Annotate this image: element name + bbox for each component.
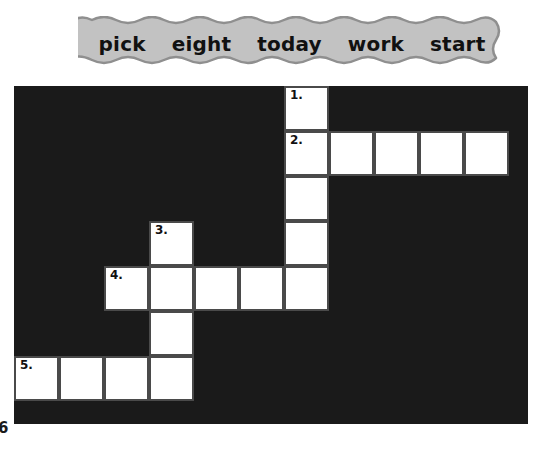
- crossword-cell[interactable]: 3.: [149, 221, 194, 266]
- word-bank-word-list: pick eight today work start: [78, 16, 506, 72]
- crossword-clue-number: 4.: [110, 269, 123, 282]
- crossword-cell[interactable]: [419, 131, 464, 176]
- crossword-cell[interactable]: [149, 266, 194, 311]
- crossword-cell[interactable]: [194, 266, 239, 311]
- crossword-cell[interactable]: 1.: [284, 86, 329, 131]
- crossword-cell[interactable]: [149, 311, 194, 356]
- crossword-cell[interactable]: [284, 221, 329, 266]
- crossword-clue-number: 5.: [20, 359, 33, 372]
- word-bank-word-work: work: [348, 34, 404, 54]
- crossword-grid: 1.2.3.4.5.: [14, 86, 528, 424]
- crossword-clue-number: 1.: [290, 89, 303, 102]
- crossword-cell[interactable]: [284, 176, 329, 221]
- crossword-cell[interactable]: [329, 131, 374, 176]
- crossword-clue-number: 2.: [290, 134, 303, 147]
- crossword-clue-number: 3.: [155, 224, 168, 237]
- word-bank-word-eight: eight: [172, 34, 232, 54]
- crossword-cell[interactable]: [464, 131, 509, 176]
- crossword-cell[interactable]: [149, 356, 194, 401]
- word-bank-word-pick: pick: [99, 34, 146, 54]
- word-bank: pick eight today work start: [78, 16, 506, 72]
- crossword-cell[interactable]: 4.: [104, 266, 149, 311]
- page-number: 6: [0, 421, 8, 436]
- word-bank-word-start: start: [430, 34, 485, 54]
- crossword-cell-layer: 1.2.3.4.5.: [14, 86, 528, 424]
- crossword-cell[interactable]: [59, 356, 104, 401]
- crossword-cell[interactable]: 5.: [14, 356, 59, 401]
- crossword-cell[interactable]: 2.: [284, 131, 329, 176]
- crossword-cell[interactable]: [104, 356, 149, 401]
- crossword-cell[interactable]: [284, 266, 329, 311]
- word-bank-word-today: today: [257, 34, 322, 54]
- crossword-cell[interactable]: [239, 266, 284, 311]
- crossword-cell[interactable]: [374, 131, 419, 176]
